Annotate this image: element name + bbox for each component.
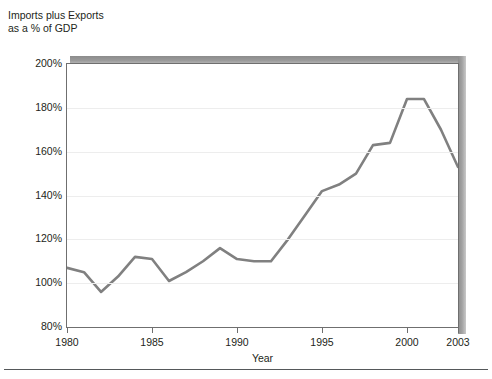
x-axis-tick-label: 2000: [387, 336, 427, 348]
x-axis-tick: [458, 328, 459, 333]
gridline-160: [67, 152, 458, 153]
y-axis-tick-label: 160%: [20, 145, 62, 157]
x-axis-ticks: [66, 328, 459, 334]
y-axis-tick-label: 140%: [20, 189, 62, 201]
y-axis-tick-label: 100%: [20, 276, 62, 288]
x-axis-tick-label: 1990: [217, 336, 257, 348]
y-axis-tick-label: 120%: [20, 232, 62, 244]
x-axis-tick-label: 1995: [302, 336, 342, 348]
gridline-100: [67, 283, 458, 284]
plot-area: [66, 63, 459, 328]
gridline-140: [67, 196, 458, 197]
x-axis-title: Year: [66, 352, 459, 364]
x-axis-tick: [407, 328, 408, 333]
footer-divider: [4, 369, 488, 370]
plot-frame-right-shadow: [458, 56, 466, 334]
x-axis-tick-label: 1980: [47, 336, 87, 348]
y-axis-tick-labels: 80%100%120%140%160%180%200%: [16, 63, 62, 328]
x-axis-tick: [67, 328, 68, 333]
gridline-180: [67, 108, 458, 109]
plot-inner: [67, 64, 458, 327]
x-axis-tick: [237, 328, 238, 333]
chart-figure: Imports plus Exports as a % of GDP 80%10…: [0, 0, 492, 379]
y-axis-tick-label: 200%: [20, 57, 62, 69]
x-axis-tick-label: 1985: [132, 336, 172, 348]
x-axis-tick: [322, 328, 323, 333]
y-axis-tick-label: 80%: [20, 320, 62, 332]
x-axis-tick-labels: 198019851990199520002003: [66, 336, 459, 350]
gridline-120: [67, 239, 458, 240]
chart-title: Imports plus Exports as a % of GDP: [8, 9, 188, 35]
y-axis-tick-label: 180%: [20, 101, 62, 113]
x-axis-tick-label: 2003: [438, 336, 478, 348]
x-axis-tick: [152, 328, 153, 333]
